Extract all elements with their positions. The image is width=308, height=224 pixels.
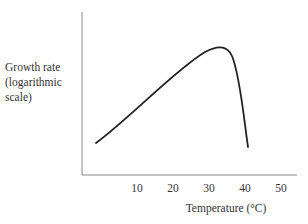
plot-area [0,0,308,224]
x-tick-10: 10 [131,182,143,194]
x-tick-20: 20 [167,182,179,194]
growth-curve [96,47,248,147]
x-tick-30: 30 [203,182,215,194]
x-axis-label: Temperature (°C) [186,202,267,214]
x-tick-50: 50 [275,182,287,194]
x-tick-40: 40 [239,182,251,194]
